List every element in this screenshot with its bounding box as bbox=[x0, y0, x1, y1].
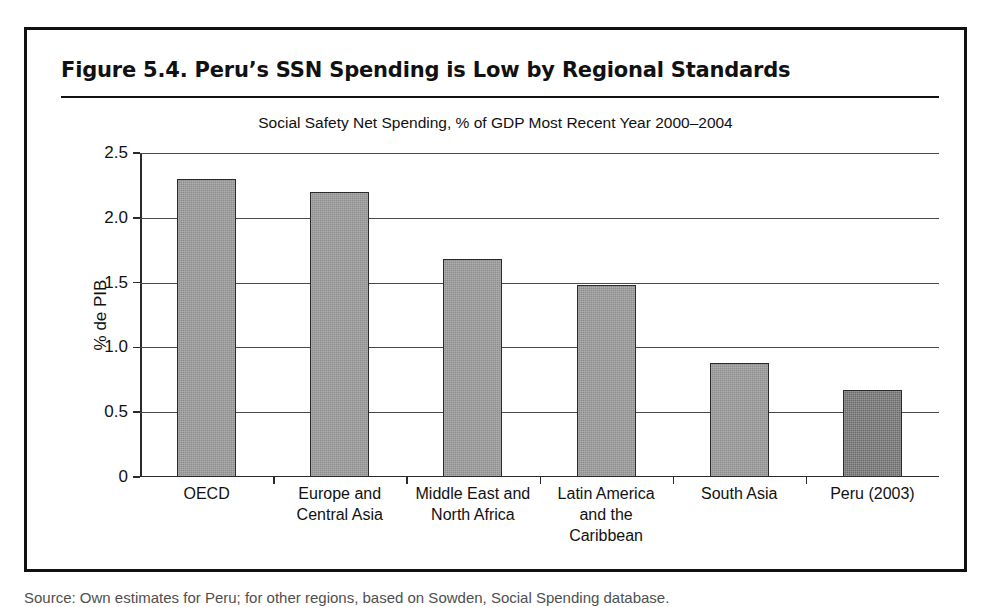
y-tick-mark bbox=[133, 476, 140, 478]
y-tick-mark bbox=[133, 282, 140, 284]
x-axis-category-label: Peru (2003) bbox=[806, 483, 939, 504]
figure-frame: Figure 5.4. Peru’s SSN Spending is Low b… bbox=[24, 27, 967, 572]
y-tick-label: 2.5 bbox=[104, 143, 128, 163]
plot-area: 00.51.01.52.02.5 % de PIB bbox=[140, 153, 939, 477]
x-axis-label-line: Peru (2003) bbox=[806, 483, 939, 504]
bar bbox=[443, 259, 502, 477]
bar bbox=[177, 179, 236, 477]
bar bbox=[310, 192, 369, 477]
y-tick-mark bbox=[133, 347, 140, 349]
x-axis-category-label: South Asia bbox=[673, 483, 806, 504]
x-axis-label-line: Latin America bbox=[540, 483, 673, 504]
x-axis-label-line: OECD bbox=[140, 483, 273, 504]
y-axis-title: % de PIB bbox=[91, 280, 111, 351]
x-axis-label-line: Europe and bbox=[273, 483, 406, 504]
x-axis-category-label: Middle East andNorth Africa bbox=[406, 483, 539, 525]
bar bbox=[577, 285, 636, 477]
x-axis-label-line: North Africa bbox=[406, 504, 539, 525]
y-tick-mark bbox=[133, 411, 140, 413]
y-tick-label: 0.5 bbox=[104, 402, 128, 422]
figure-title: Figure 5.4. Peru’s SSN Spending is Low b… bbox=[61, 58, 790, 82]
y-tick-mark bbox=[133, 152, 140, 154]
chart-subtitle: Social Safety Net Spending, % of GDP Mos… bbox=[27, 114, 964, 132]
y-tick-label: 2.0 bbox=[104, 208, 128, 228]
x-axis-label-line: Central Asia bbox=[273, 504, 406, 525]
x-axis-label-line: South Asia bbox=[673, 483, 806, 504]
title-divider-rule bbox=[61, 96, 939, 98]
bar bbox=[710, 363, 769, 477]
x-axis-label-line: and the bbox=[540, 504, 673, 525]
x-axis-category-label: OECD bbox=[140, 483, 273, 504]
x-axis-category-label: Latin Americaand theCaribbean bbox=[540, 483, 673, 546]
bars-layer bbox=[140, 153, 939, 477]
x-axis-category-label: Europe andCentral Asia bbox=[273, 483, 406, 525]
x-axis-category-labels: OECDEurope andCentral AsiaMiddle East an… bbox=[140, 483, 939, 563]
source-caption: Source: Own estimates for Peru; for othe… bbox=[24, 588, 924, 607]
x-axis-label-line: Middle East and bbox=[406, 483, 539, 504]
y-tick-label: 0 bbox=[119, 467, 128, 487]
y-tick-mark bbox=[133, 217, 140, 219]
bar bbox=[843, 390, 902, 477]
x-axis-label-line: Caribbean bbox=[540, 525, 673, 546]
